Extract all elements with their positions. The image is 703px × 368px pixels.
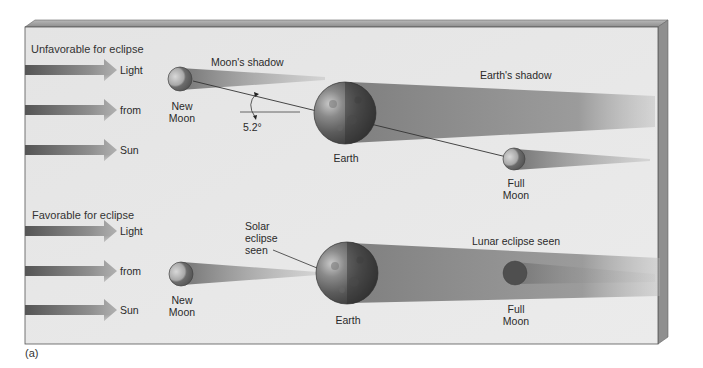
earth [316, 242, 378, 304]
full-moon-label-line1: Full [508, 177, 525, 189]
full-moon-eclipsed [503, 261, 527, 285]
full-moon-label-line1: Full [508, 303, 525, 315]
earth-label: Earth [333, 152, 358, 164]
eclipse-diagram: Unfavorable for eclipse Light from Sun M… [0, 0, 703, 368]
new-moon-label-line2: Moon [169, 112, 195, 124]
diagram-canvas [0, 0, 703, 368]
figure-caption: (a) [25, 347, 38, 359]
full-moon-label-line2: Moon [503, 315, 529, 327]
solar-eclipse-label-line3: seen [245, 244, 268, 256]
full-moon [503, 148, 525, 170]
new-moon [169, 262, 193, 286]
new-moon-label-line1: New [171, 294, 192, 306]
lunar-eclipse-label: Lunar eclipse seen [472, 235, 560, 247]
earth [314, 82, 376, 144]
new-moon [168, 67, 192, 91]
arrow-label-sun: Sun [120, 144, 139, 156]
solar-eclipse-label-line2: eclipse [245, 232, 278, 244]
favorable-title: Favorable for eclipse [32, 209, 134, 221]
solar-eclipse-label-line1: Solar [245, 220, 270, 232]
arrow-label-light: Light [120, 64, 143, 76]
angle-label: 5.2° [243, 121, 262, 133]
earth-shadow-label: Earth's shadow [480, 69, 551, 81]
arrow-label-from: from [120, 265, 141, 277]
moon-shadow-label: Moon's shadow [211, 56, 284, 68]
arrow-label-sun: Sun [120, 304, 139, 316]
arrow-label-from: from [120, 104, 141, 116]
full-moon-label-line2: Moon [503, 189, 529, 201]
new-moon-label-line2: Moon [169, 306, 195, 318]
unfavorable-title: Unfavorable for eclipse [31, 43, 144, 55]
new-moon-label-line1: New [171, 100, 192, 112]
earth-label: Earth [335, 314, 360, 326]
arrow-label-light: Light [120, 225, 143, 237]
